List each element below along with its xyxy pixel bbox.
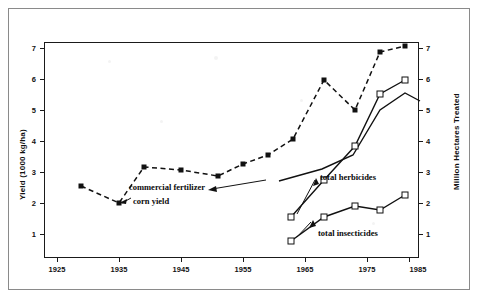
total-insecticides-leader (297, 222, 311, 237)
annotation-total-insecticides: total insecticides (318, 228, 378, 238)
commercial-fertilizer-leader (212, 180, 266, 189)
annotation-corn-yield: corn yield (133, 196, 169, 206)
scan-speck (108, 60, 111, 63)
scan-speck (160, 120, 163, 123)
scan-speck (372, 222, 375, 225)
annotation-commercial-fertilizer: commercial fertilizer (129, 182, 205, 192)
total-herbicides-line (291, 80, 405, 217)
scan-speck (214, 56, 218, 60)
total-herbicides-leader (297, 180, 315, 214)
series-commercial-fertilizer (279, 93, 420, 181)
series-layer (0, 0, 480, 300)
series-total-herbicides (288, 77, 408, 220)
commercial-fertilizer-line (279, 93, 420, 181)
commercial-fertilizer-arrowhead (208, 186, 217, 192)
total-herbicides-markers (288, 77, 408, 220)
figure-canvas: 7 6 5 4 3 2 1 7 6 5 4 3 2 1 1925 1935 19… (0, 0, 480, 300)
total-insecticides-arrowhead (309, 220, 316, 228)
annotation-total-herbicides: total herbicides (320, 172, 376, 182)
scan-speck (300, 99, 303, 102)
